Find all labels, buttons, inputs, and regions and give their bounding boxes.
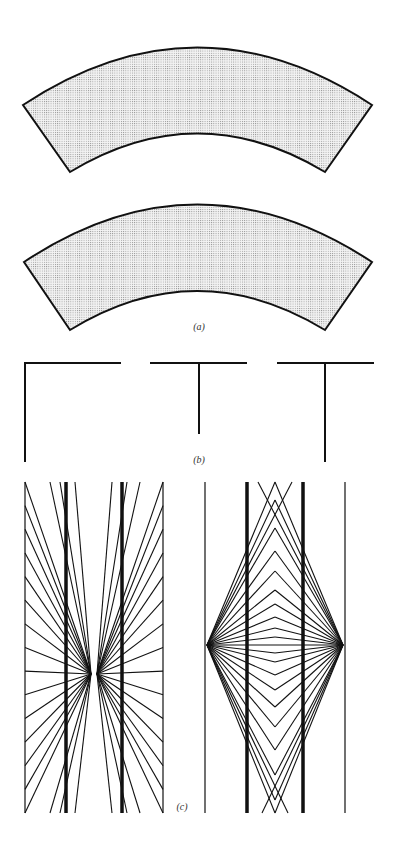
- long-t-shape: [277, 363, 374, 462]
- panel-c-label: (c): [176, 801, 187, 812]
- panel-a-label: (a): [193, 321, 205, 332]
- upper-arc-shape: [23, 48, 372, 173]
- short-t-shape: [150, 363, 247, 434]
- l-shape: [24, 363, 121, 462]
- wundt-figure: [205, 482, 345, 813]
- lower-arc-shape: [24, 205, 372, 331]
- panel-b-label: (b): [193, 454, 205, 465]
- illusion-figure-canvas: [0, 0, 395, 868]
- hering-figure: [25, 482, 163, 813]
- panel-b: [24, 363, 374, 462]
- panel-a: [23, 48, 372, 331]
